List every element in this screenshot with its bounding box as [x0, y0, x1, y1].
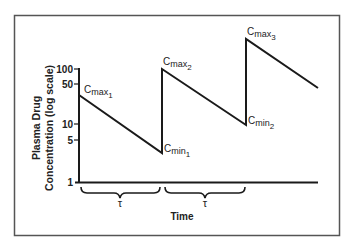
cmax1-label: Cmax1 — [84, 84, 113, 100]
cmin2-label: Cmin2 — [248, 115, 275, 131]
x-axis-label: Time — [170, 211, 194, 222]
pk-dosing-diagram: Plasma Drug Concentration (log scale) 10… — [0, 0, 351, 245]
tau-label-2: τ — [203, 197, 208, 209]
y-tick-10: 10 — [62, 119, 74, 130]
cmax3-label: Cmax3 — [247, 26, 276, 42]
y-tick-100: 100 — [56, 64, 73, 75]
y-axis-label-line2: Concentration (log scale) — [43, 65, 55, 191]
concentration-curve — [79, 39, 318, 153]
y-tick-50: 50 — [62, 79, 74, 90]
y-tick-5: 5 — [67, 135, 73, 146]
cmax2-label: Cmax2 — [163, 56, 192, 72]
y-tick-1: 1 — [67, 177, 73, 188]
tau-label-1: τ — [118, 197, 123, 209]
cmin1-label: Cmin1 — [164, 143, 191, 159]
y-axis-label-line1: Plasma Drug — [30, 96, 42, 160]
